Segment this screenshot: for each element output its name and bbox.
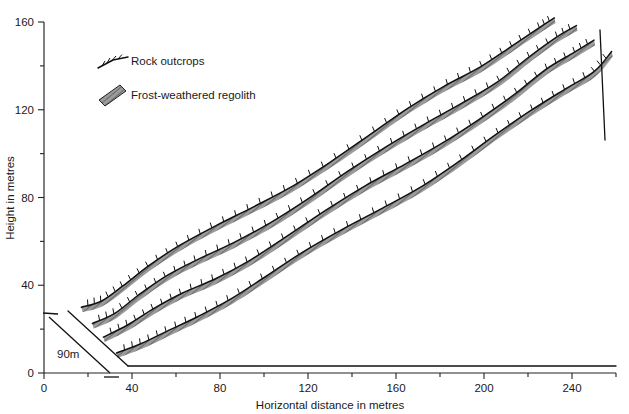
- x-tick-label: 160: [386, 382, 405, 394]
- hachure-tick: [536, 45, 538, 50]
- hachure-tick: [190, 284, 191, 290]
- hachure-tick: [531, 105, 533, 110]
- hachure-tick: [252, 227, 253, 232]
- hachure-tick: [481, 112, 483, 117]
- hachure-tick: [586, 39, 588, 44]
- hachure-tick: [259, 198, 260, 203]
- legend-label-rock-outcrops: Rock outcrops: [131, 55, 205, 67]
- hachure-tick: [385, 201, 386, 206]
- hachure-tick: [140, 338, 141, 344]
- hachure-tick: [247, 204, 248, 209]
- hachure-tick: [579, 43, 581, 48]
- hachure-tick: [583, 72, 585, 77]
- scale-bar-cap-top: [43, 313, 58, 314]
- hachure-tick: [264, 220, 265, 225]
- hachure-tick: [448, 163, 450, 168]
- hachure-tick: [194, 255, 195, 260]
- hachure-tick: [519, 35, 521, 40]
- hachure-tick: [228, 239, 229, 244]
- hachure-tick: [185, 317, 186, 322]
- hachure-tick: [433, 143, 435, 148]
- hachure-tick: [163, 272, 165, 277]
- hachure-tick: [161, 299, 162, 304]
- hachure-tick: [110, 328, 111, 333]
- hachure-tick: [235, 210, 236, 215]
- x-axis-title: Horizontal distance in metres: [256, 399, 405, 411]
- hachure-tick: [420, 149, 422, 154]
- hachure-tick: [271, 192, 272, 197]
- hachure-tick: [326, 180, 328, 185]
- hachure-tick: [308, 170, 310, 175]
- y-tick-label: 0: [28, 367, 34, 379]
- hachure-tick: [297, 250, 299, 255]
- hachure-tick: [548, 16, 550, 21]
- hachure-tick: [205, 307, 206, 312]
- hachure-tick: [390, 138, 392, 143]
- hachure-tick: [249, 281, 251, 286]
- y-tick-label: 160: [15, 16, 34, 28]
- hachure-tick: [113, 287, 115, 292]
- hachure-tick: [99, 315, 100, 320]
- hachure-tick: [496, 128, 498, 133]
- legend-item-frost-weathered-regolith: Frost-weathered regolith: [99, 85, 256, 106]
- y-axis-title: Height in metres: [4, 156, 16, 240]
- hachure-tick: [460, 155, 462, 160]
- hachure-tick: [154, 278, 156, 283]
- legend-label-frost-weathered-regolith: Frost-weathered regolith: [131, 89, 256, 101]
- hachure-tick: [331, 201, 333, 206]
- hachure-tick: [339, 171, 341, 176]
- hachure-tick: [222, 216, 223, 221]
- hachure-tick: [446, 79, 447, 84]
- hachure-tick: [179, 289, 180, 294]
- x-tick-label: 200: [474, 382, 493, 394]
- hachure-tick: [408, 156, 410, 161]
- hachure-tick: [383, 170, 384, 175]
- hachure-tick: [555, 32, 557, 37]
- hachure-tick: [227, 295, 228, 300]
- plot-canvas: 90m 04080120160 04080120160200240 Height…: [0, 0, 629, 414]
- hachure-tick: [385, 118, 387, 123]
- hachure-tick: [597, 61, 600, 65]
- hachure-tick: [535, 72, 537, 77]
- hachure-tick: [409, 101, 411, 106]
- hachure-tick: [543, 19, 545, 24]
- hachure-tick: [156, 255, 158, 260]
- frost-weathered-regolith-band: [103, 40, 595, 342]
- hachure-tick: [148, 335, 149, 340]
- terrain-ridges: [81, 16, 612, 358]
- hachure-tick: [591, 67, 594, 71]
- hachure-tick: [528, 29, 530, 34]
- hachure-tick: [166, 248, 168, 253]
- hachure-tick: [347, 144, 349, 149]
- hachure-tick: [422, 94, 424, 99]
- hachure-tick: [146, 262, 148, 267]
- hachure-tick: [396, 163, 397, 168]
- hachure-tick: [397, 110, 399, 115]
- hachure-tick: [334, 228, 336, 233]
- axes: 04080120160 04080120160200240 Height in …: [4, 16, 616, 411]
- hachure-tick: [365, 154, 367, 159]
- y-tick-label: 40: [21, 279, 34, 291]
- hachure-tick: [490, 54, 492, 59]
- hachure-tick: [484, 137, 486, 142]
- frost-weathered-regolith-band: [92, 26, 577, 329]
- hachure-tick: [187, 235, 188, 240]
- hachure-tick: [563, 84, 565, 89]
- hachure-tick: [492, 104, 494, 109]
- hachure-tick: [472, 146, 474, 151]
- hachure-tick: [603, 54, 606, 58]
- hachure-tick: [415, 124, 417, 129]
- hachure-tick: [295, 178, 297, 183]
- hachure-tick: [132, 341, 133, 347]
- hachure-tick: [142, 309, 144, 314]
- hachure-tick: [257, 249, 259, 254]
- hachure-tick: [573, 47, 575, 52]
- hachure-tick: [469, 67, 470, 72]
- hachure-tick: [344, 193, 346, 198]
- hachure-tick: [170, 294, 171, 299]
- hachure-tick: [475, 89, 477, 94]
- hachure-tick: [514, 88, 516, 93]
- hachure-tick: [240, 233, 241, 238]
- hachure-tick: [281, 234, 283, 239]
- hachure-tick: [106, 292, 108, 297]
